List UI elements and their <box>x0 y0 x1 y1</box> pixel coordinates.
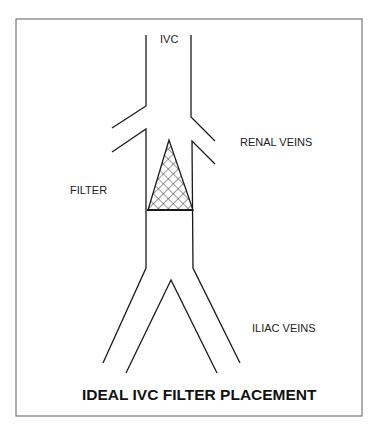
filter-label: FILTER <box>70 184 107 196</box>
frame <box>16 19 362 416</box>
ivc-label: IVC <box>160 33 178 45</box>
diagram-title: IDEAL IVC FILTER PLACEMENT <box>82 386 317 404</box>
iliac-veins-label: ILIAC VEINS <box>252 322 316 334</box>
diagram-canvas <box>0 0 379 433</box>
renal-veins-label: RENAL VEINS <box>240 136 312 148</box>
filter-shape <box>147 140 193 210</box>
